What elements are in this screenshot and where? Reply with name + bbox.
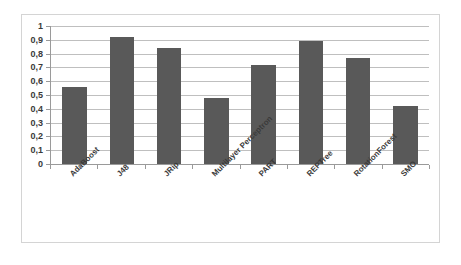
- y-axis-tick-label: 0,5: [30, 90, 43, 100]
- bar: [346, 58, 371, 164]
- bar-slot: [98, 26, 145, 164]
- plot-area: 00,10,20,30,40,50,60,70,80,91 AdaBoostJ4…: [50, 26, 429, 164]
- x-axis-tick: [287, 165, 288, 169]
- x-axis-tick: [240, 165, 241, 169]
- y-axis-tick: [46, 40, 50, 41]
- bar: [204, 98, 229, 164]
- bar-slot: [335, 26, 382, 164]
- chart-frame: 00,10,20,30,40,50,60,70,80,91 AdaBoostJ4…: [21, 14, 440, 243]
- y-axis-tick: [46, 109, 50, 110]
- y-axis-tick: [46, 136, 50, 137]
- y-axis-tick-label: 0,6: [30, 76, 43, 86]
- y-axis-tick: [46, 26, 50, 27]
- bar-slot: [51, 26, 98, 164]
- bar: [157, 48, 182, 164]
- bar: [62, 87, 87, 164]
- y-axis-tick-label: 0,2: [30, 131, 43, 141]
- y-axis-tick-label: 1: [38, 21, 43, 31]
- y-axis-tick-label: 0,8: [30, 49, 43, 59]
- x-axis-tick: [429, 165, 430, 169]
- x-axis-tick: [97, 165, 98, 169]
- x-axis-tick: [382, 165, 383, 169]
- y-axis-tick: [46, 150, 50, 151]
- y-axis-tick-label: 0,1: [30, 145, 43, 155]
- bar: [110, 37, 135, 164]
- x-axis-tick: [334, 165, 335, 169]
- x-axis-tick: [145, 165, 146, 169]
- y-axis-tick: [46, 54, 50, 55]
- bar-slot: [287, 26, 334, 164]
- bar: [299, 41, 324, 164]
- y-axis-tick: [46, 123, 50, 124]
- y-axis-tick: [46, 67, 50, 68]
- x-axis-tick: [192, 165, 193, 169]
- bar: [251, 65, 276, 164]
- y-axis-tick-label: 0: [38, 159, 43, 169]
- bar-slot: [193, 26, 240, 164]
- y-axis-tick: [46, 95, 50, 96]
- bar-slot: [146, 26, 193, 164]
- y-axis-tick-label: 0,7: [30, 62, 43, 72]
- x-axis-tick: [50, 165, 51, 169]
- y-axis-tick-label: 0,9: [30, 35, 43, 45]
- bar: [393, 106, 418, 164]
- y-axis-tick-label: 0,3: [30, 118, 43, 128]
- y-axis-tick-label: 0,4: [30, 104, 43, 114]
- y-axis-tick: [46, 81, 50, 82]
